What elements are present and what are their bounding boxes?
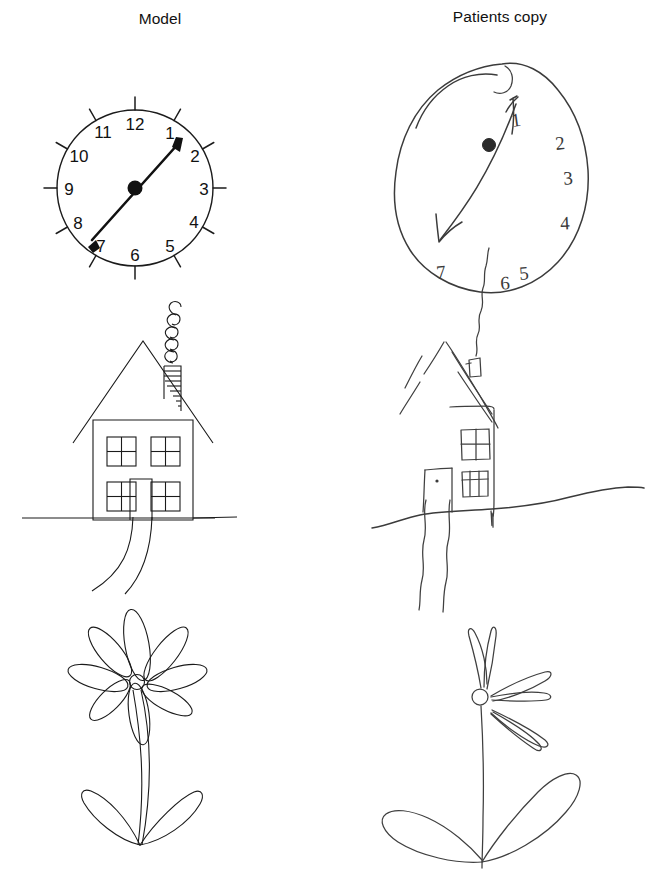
patient-numeral-4: 4 bbox=[560, 212, 571, 233]
clock-numeral-3: 3 bbox=[199, 180, 208, 199]
patient-house-windows bbox=[461, 429, 490, 497]
model-ground-line-right bbox=[193, 517, 237, 518]
patient-clock-hub-dot bbox=[483, 139, 496, 152]
clock-numeral-8: 8 bbox=[73, 214, 82, 233]
model-flower-petals bbox=[65, 607, 210, 746]
model-flower-stem bbox=[133, 690, 149, 845]
model-clock-group: 12 1 2 3 4 5 6 7 8 9 10 11 bbox=[44, 97, 226, 279]
clock-numeral-9: 9 bbox=[64, 180, 73, 199]
patient-window-upper bbox=[461, 429, 490, 460]
patient-numeral-2: 2 bbox=[554, 132, 566, 154]
model-house-group bbox=[22, 302, 237, 594]
patient-numeral-7: 7 bbox=[435, 261, 447, 283]
patient-numeral-3: 3 bbox=[563, 167, 574, 189]
model-house-facade bbox=[93, 420, 193, 520]
patient-house-group bbox=[372, 248, 644, 612]
clock-hub-dot bbox=[128, 181, 143, 196]
patient-flower-stem bbox=[481, 706, 483, 868]
patient-house-path bbox=[419, 500, 450, 612]
model-house-roof bbox=[73, 341, 213, 443]
clock-numeral-11: 11 bbox=[94, 123, 112, 142]
clock-numeral-12: 12 bbox=[126, 115, 145, 134]
model-flower-group bbox=[65, 607, 210, 845]
clock-numeral-6: 6 bbox=[130, 246, 139, 265]
window-top-left bbox=[107, 437, 136, 466]
clock-numeral-5: 5 bbox=[165, 237, 174, 256]
patient-house-chimney bbox=[466, 358, 481, 377]
patient-ground-line bbox=[372, 487, 644, 528]
drawings-svg: 12 1 2 3 4 5 6 7 8 9 10 11 bbox=[0, 0, 645, 894]
patient-numeral-1: 1 bbox=[510, 109, 522, 131]
window-top-right bbox=[151, 437, 180, 466]
patient-house-smoke bbox=[476, 248, 489, 356]
patient-clock-hands bbox=[436, 96, 518, 242]
model-house-windows bbox=[107, 437, 180, 511]
patient-flower-leaves bbox=[382, 774, 580, 863]
patient-flower-group bbox=[382, 627, 580, 868]
patient-house-roof bbox=[400, 342, 498, 428]
door-knob bbox=[435, 479, 438, 482]
patient-flower-center bbox=[472, 689, 488, 705]
patient-clock-group: 1 2 3 4 5 6 7 bbox=[395, 63, 589, 294]
patient-clock-numerals: 1 2 3 4 5 6 7 bbox=[435, 109, 573, 294]
model-house-door bbox=[130, 479, 152, 520]
clock-numeral-2: 2 bbox=[190, 147, 199, 166]
window-bottom-right bbox=[151, 482, 180, 511]
clock-numeral-1: 1 bbox=[165, 124, 174, 143]
patient-window-lower bbox=[462, 471, 488, 497]
figure-canvas: Model Patients copy 12 bbox=[0, 0, 645, 894]
patient-numeral-5: 5 bbox=[518, 262, 529, 284]
patient-house-door bbox=[423, 468, 452, 512]
patient-numeral-6: 6 bbox=[500, 272, 511, 294]
patient-clock-hook bbox=[494, 66, 512, 93]
model-house-chimney bbox=[164, 366, 181, 411]
clock-numeral-4: 4 bbox=[189, 213, 198, 232]
clock-numeral-10: 10 bbox=[70, 147, 89, 166]
model-house-path bbox=[92, 517, 152, 594]
patient-clock-blob bbox=[395, 63, 589, 293]
patient-clock-blob-overlap bbox=[416, 74, 497, 128]
window-bottom-left bbox=[107, 482, 136, 511]
model-house-smoke bbox=[165, 302, 181, 363]
